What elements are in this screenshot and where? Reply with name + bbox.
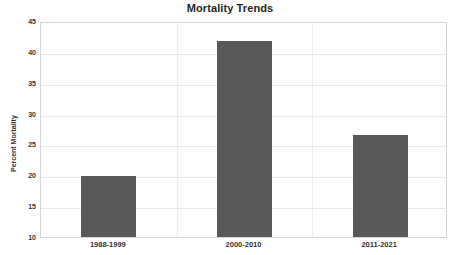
x-axis-tick-label: 1988-1999	[40, 240, 176, 249]
y-axis-tick-label: 45	[2, 18, 36, 26]
y-axis-tick-label: 15	[2, 203, 36, 211]
bar[interactable]	[353, 135, 408, 237]
bar[interactable]	[81, 176, 136, 237]
y-axis-tick-label: 30	[2, 111, 36, 119]
bar[interactable]	[217, 41, 272, 237]
y-axis-tick-label: 25	[2, 141, 36, 149]
x-axis-tick-label: 2000-2010	[176, 240, 312, 249]
bar-chart: Mortality Trends Percent Mortality 10152…	[0, 0, 460, 255]
y-axis-tick-labels: 1015202530354045	[0, 22, 36, 238]
x-axis-tick-label: 2011-2021	[311, 240, 447, 249]
y-axis-tick-label: 20	[2, 172, 36, 180]
y-axis-tick-label: 40	[2, 49, 36, 57]
chart-title: Mortality Trends	[0, 2, 460, 14]
y-axis-tick-label: 10	[2, 234, 36, 242]
y-axis-tick-label: 35	[2, 80, 36, 88]
bars-layer	[41, 23, 446, 237]
x-axis-tick-labels: 1988-19992000-20102011-2021	[40, 239, 447, 253]
plot-area	[40, 22, 447, 238]
